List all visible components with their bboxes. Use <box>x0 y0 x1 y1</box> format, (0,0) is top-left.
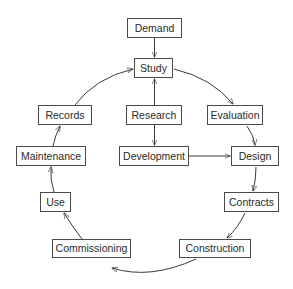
node-design: Design <box>231 146 279 166</box>
node-development: Development <box>119 146 189 166</box>
node-study: Study <box>134 58 173 78</box>
edge-study-evaluation <box>174 69 233 104</box>
edge-construction-commissioning <box>112 259 196 272</box>
node-label: Research <box>132 110 177 121</box>
node-use: Use <box>40 192 71 212</box>
node-contracts: Contracts <box>224 192 279 212</box>
node-label: Evaluation <box>210 110 259 121</box>
edge-design-contracts <box>253 167 256 191</box>
node-label: Development <box>123 151 185 162</box>
node-label: Study <box>140 63 167 74</box>
edge-contracts-construction <box>227 213 245 238</box>
edge-use-maintenance <box>51 167 54 192</box>
edge-records-study <box>75 69 133 105</box>
node-label: Design <box>239 151 272 162</box>
node-label: Contracts <box>229 197 274 208</box>
node-label: Records <box>45 110 84 121</box>
node-commissioning: Commissioning <box>52 239 131 258</box>
node-demand: Demand <box>127 18 182 38</box>
node-label: Maintenance <box>21 151 81 162</box>
node-evaluation: Evaluation <box>207 105 263 125</box>
edge-maintenance-records <box>53 126 60 146</box>
edge-evaluation-design <box>247 126 255 145</box>
edge-commissioning-use <box>64 213 82 239</box>
node-research: Research <box>126 105 182 125</box>
node-label: Construction <box>186 243 245 254</box>
node-label: Use <box>46 197 65 208</box>
node-label: Commissioning <box>56 243 128 254</box>
node-label: Demand <box>135 23 175 34</box>
node-records: Records <box>38 105 92 125</box>
project-lifecycle-diagram: Demand Study Records Research Evaluation… <box>0 0 293 289</box>
node-construction: Construction <box>179 239 251 258</box>
node-maintenance: Maintenance <box>16 146 86 166</box>
